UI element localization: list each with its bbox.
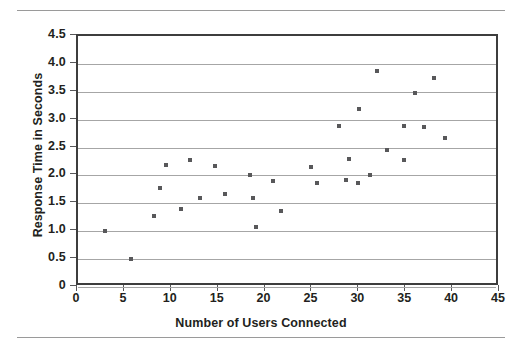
- data-point: [271, 179, 275, 183]
- data-point: [152, 214, 156, 218]
- data-point: [251, 196, 255, 200]
- x-tick-mark: [170, 285, 171, 291]
- y-tick-label: 4.5: [24, 28, 66, 41]
- data-point: [103, 229, 107, 233]
- data-point: [356, 181, 360, 185]
- data-point: [375, 69, 379, 73]
- data-point: [279, 209, 283, 213]
- x-tick-mark: [123, 285, 124, 291]
- data-point: [357, 107, 361, 111]
- y-axis-title: Response Time in Seconds: [31, 40, 45, 270]
- y-tick-label: 4.0: [24, 56, 66, 69]
- y-tick-label: 2.5: [24, 139, 66, 152]
- data-point: [344, 178, 348, 182]
- data-point: [422, 125, 426, 129]
- data-point: [188, 158, 192, 162]
- data-point: [337, 124, 341, 128]
- data-point: [129, 257, 133, 261]
- y-tick-label: 0.5: [24, 251, 66, 264]
- data-point: [368, 173, 372, 177]
- scatter-chart-figure: Response Time in Seconds Number of Users…: [0, 0, 522, 349]
- x-tick-label: 5: [103, 292, 143, 305]
- x-tick-mark: [357, 285, 358, 291]
- data-point: [248, 173, 252, 177]
- x-tick-label: 30: [337, 292, 377, 305]
- x-tick-label: 40: [431, 292, 471, 305]
- data-point: [223, 192, 227, 196]
- data-point: [309, 165, 313, 169]
- data-point: [432, 76, 436, 80]
- x-axis-title: Number of Users Connected: [0, 316, 522, 330]
- gridline-horizontal: [78, 231, 496, 232]
- y-tick-label: 1.5: [24, 195, 66, 208]
- x-tick-mark: [76, 285, 77, 291]
- x-tick-mark: [217, 285, 218, 291]
- top-divider-rule: [17, 10, 505, 11]
- x-tick-mark: [264, 285, 265, 291]
- y-tick-label: 3.5: [24, 84, 66, 97]
- y-tick-label: 2.0: [24, 167, 66, 180]
- gridline-horizontal: [78, 259, 496, 260]
- x-tick-mark: [310, 285, 311, 291]
- x-tick-mark: [451, 285, 452, 291]
- gridline-horizontal: [78, 64, 496, 65]
- x-tick-label: 35: [384, 292, 424, 305]
- data-point: [443, 136, 447, 140]
- x-tick-label: 10: [150, 292, 190, 305]
- gridline-horizontal: [78, 175, 496, 176]
- data-point: [254, 225, 258, 229]
- x-tick-mark: [404, 285, 405, 291]
- data-point: [179, 207, 183, 211]
- x-tick-label: 45: [478, 292, 518, 305]
- gridline-horizontal: [78, 203, 496, 204]
- data-point: [213, 164, 217, 168]
- gridline-horizontal: [78, 287, 496, 288]
- gridline-horizontal: [78, 92, 496, 93]
- data-point: [158, 186, 162, 190]
- x-tick-label: 20: [244, 292, 284, 305]
- data-point: [413, 91, 417, 95]
- plot-area: [76, 34, 498, 285]
- gridline-horizontal: [78, 148, 496, 149]
- gridline-horizontal: [78, 120, 496, 121]
- data-point: [385, 148, 389, 152]
- y-tick-label: 1.0: [24, 223, 66, 236]
- data-point: [315, 181, 319, 185]
- data-point: [164, 163, 168, 167]
- x-tick-mark: [498, 285, 499, 291]
- bottom-divider-rule: [17, 337, 505, 338]
- data-point: [347, 157, 351, 161]
- x-tick-label: 25: [290, 292, 330, 305]
- data-point: [402, 124, 406, 128]
- data-point: [198, 196, 202, 200]
- y-tick-label: 3.0: [24, 111, 66, 124]
- x-tick-label: 15: [197, 292, 237, 305]
- data-point: [402, 158, 406, 162]
- x-tick-label: 0: [56, 292, 96, 305]
- y-tick-label: 0: [24, 279, 66, 292]
